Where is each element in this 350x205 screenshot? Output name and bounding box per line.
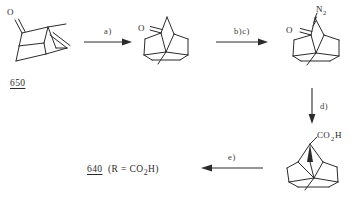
structure-650-drawing: O	[4, 4, 82, 76]
structure-ketone-drawing: O	[136, 8, 198, 74]
reaction-scheme: O 650 a)	[0, 0, 350, 205]
arrow-bc-glyph	[216, 37, 268, 47]
arrow-bc-label: b)c)	[216, 26, 268, 36]
structure-diazo: O N 2	[282, 2, 348, 74]
arrow-e-label: e)	[201, 152, 263, 162]
arrow-d: d)	[307, 88, 328, 124]
oxygen-label-ketone: O	[138, 23, 145, 33]
nitrogen-label-diazo: N	[316, 4, 323, 14]
compound-number-640: 640	[87, 164, 102, 174]
compound-label-640: 640 (R = CO2H)	[87, 164, 159, 177]
arrow-a-label: a)	[84, 26, 132, 36]
nitrogen-subscript-diazo: 2	[323, 9, 326, 16]
arrow-e-glyph	[201, 163, 263, 173]
arrow-d-label: d)	[320, 101, 328, 111]
carboxyl-subscript: 2	[331, 135, 334, 142]
product-caption-close: H)	[148, 164, 159, 174]
structure-650: O	[4, 4, 82, 76]
structure-ketone: O	[136, 8, 198, 74]
oxygen-label-650: O	[7, 7, 14, 17]
compound-label-650: 650	[10, 78, 25, 88]
arrow-a-glyph	[84, 37, 132, 47]
product-caption-open: (R = CO	[108, 164, 144, 174]
compound-number-650: 650	[10, 78, 25, 88]
arrow-d-glyph	[307, 88, 317, 124]
structure-acid-drawing: CO 2 H	[283, 128, 350, 198]
structure-acid: CO 2 H	[283, 128, 350, 198]
carboxyl-label-h: H	[335, 130, 342, 140]
carboxyl-label-c-o: CO	[317, 130, 330, 140]
arrow-e: e)	[201, 152, 263, 173]
oxygen-label-diazo: O	[286, 25, 293, 35]
structure-diazo-drawing: O N 2	[282, 2, 348, 74]
arrow-a: a)	[84, 26, 132, 47]
arrow-bc: b)c)	[216, 26, 268, 47]
